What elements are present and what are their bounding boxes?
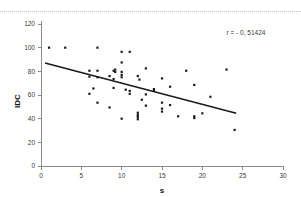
- scatter-plot: 020406080100120 051015202530 r = - 0, 51…: [0, 0, 301, 197]
- data-point: [161, 102, 163, 104]
- y-tick-label: 120: [24, 20, 35, 27]
- y-tick-label: 40: [28, 115, 36, 122]
- x-tick-label: 0: [39, 172, 43, 179]
- x-tick-label: 5: [80, 172, 84, 179]
- y-tick-label: 100: [24, 44, 35, 51]
- y-tick-label: 0: [31, 162, 35, 169]
- regression-line: [45, 63, 236, 113]
- data-point: [225, 68, 227, 70]
- data-point: [145, 67, 147, 69]
- data-point: [88, 76, 90, 78]
- data-point: [92, 87, 94, 89]
- data-point: [193, 117, 195, 119]
- data-point: [108, 106, 110, 108]
- data-point: [201, 112, 203, 114]
- data-point: [234, 129, 236, 131]
- x-tick-label: 10: [118, 172, 126, 179]
- data-point: [114, 71, 116, 73]
- data-point: [121, 118, 123, 120]
- x-tick-label: 30: [279, 172, 287, 179]
- data-point: [64, 47, 66, 49]
- data-point: [145, 105, 147, 107]
- data-point: [193, 84, 195, 86]
- data-point: [161, 108, 163, 110]
- data-point: [137, 118, 139, 120]
- data-point: [145, 93, 147, 95]
- data-point: [121, 71, 123, 73]
- y-axis-title: IDC: [13, 94, 22, 108]
- x-tick-label: 20: [199, 172, 207, 179]
- x-tick-label: 15: [158, 172, 166, 179]
- y-axis-ticks: 020406080100120: [24, 20, 41, 169]
- data-point: [114, 68, 116, 70]
- x-tick-label: 25: [239, 172, 247, 179]
- y-tick-label: 80: [28, 68, 36, 75]
- data-point: [121, 76, 123, 78]
- x-axis-ticks: 051015202530: [39, 166, 287, 179]
- y-tick-label: 20: [28, 139, 36, 146]
- chart-figure: 020406080100120 051015202530 r = - 0, 51…: [0, 0, 301, 197]
- data-point: [137, 116, 139, 118]
- data-point: [169, 86, 171, 88]
- data-point: [113, 87, 115, 89]
- data-point: [185, 70, 187, 72]
- data-point: [88, 93, 90, 95]
- data-point: [113, 78, 115, 80]
- data-point: [48, 47, 50, 49]
- data-point: [161, 110, 163, 112]
- x-axis-title: s: [160, 186, 165, 195]
- data-point: [121, 61, 123, 63]
- data-point: [96, 47, 98, 49]
- correlation-coefficient: r = - 0, 51424: [227, 29, 266, 36]
- y-tick-label: 60: [28, 91, 36, 98]
- data-point: [138, 79, 140, 81]
- data-point: [108, 75, 110, 77]
- data-point: [209, 96, 211, 98]
- data-point: [125, 89, 127, 91]
- data-point: [96, 102, 98, 104]
- data-point: [129, 93, 131, 95]
- data-point: [121, 74, 123, 76]
- data-point: [141, 99, 143, 101]
- data-point: [177, 115, 179, 117]
- data-point: [169, 104, 171, 106]
- data-point: [88, 70, 90, 72]
- data-point: [129, 90, 131, 92]
- data-point: [121, 51, 123, 53]
- data-point: [161, 77, 163, 79]
- data-point: [129, 51, 131, 53]
- data-point: [137, 112, 139, 114]
- data-point: [137, 75, 139, 77]
- chart-annotations: r = - 0, 51424: [227, 29, 266, 36]
- data-point: [96, 70, 98, 72]
